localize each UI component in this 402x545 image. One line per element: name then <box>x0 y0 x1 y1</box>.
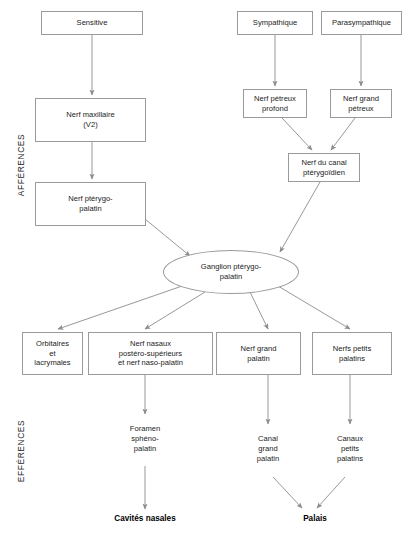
pterygopalatine-ganglion-diagram: Sensitive Sympathique Parasympathique Ne… <box>0 0 402 545</box>
side-label-efferences: EFFÉRENCES <box>16 406 26 496</box>
node-nerf-pterygo-palatin[interactable]: Nerf ptérygo- palatin <box>35 182 146 226</box>
node-ganglion-line2: palatin <box>220 272 242 282</box>
label-foramen-line1: Foramen <box>105 424 185 434</box>
node-nerf-pterygo-palatin-line2: palatin <box>79 204 101 214</box>
label-palais: Palais <box>275 514 355 523</box>
node-nerf-petreux-profond[interactable]: Nerf pétreux profond <box>243 89 307 118</box>
arrow-ganglion-to-nerfs-nasaux <box>145 292 205 329</box>
node-nerf-canal-pterygoidien[interactable]: Nerf du canal ptérygoïdien <box>288 153 360 182</box>
node-nerf-grand-petreux[interactable]: Nerf grand pétreux <box>330 89 392 118</box>
arrow-ganglion-to-nerfs-petits-palatins <box>278 286 350 329</box>
node-ganglion-line1: Ganglion ptérygo- <box>201 262 261 272</box>
arrow-canaux-petits-to-palais <box>317 477 345 508</box>
node-sensitive[interactable]: Sensitive <box>41 11 143 35</box>
label-canal-grand-line2: grand <box>232 444 304 454</box>
node-sympathique[interactable]: Sympathique <box>237 11 313 35</box>
node-nerfs-nasaux-line3: et nerf naso-palatin <box>118 358 183 368</box>
node-nerf-grand-petreux-line1: Nerf grand <box>343 94 379 104</box>
node-orbitaires-line2: et <box>49 349 55 359</box>
arrow-ganglion-to-nerf-grand-palatin <box>250 292 268 329</box>
node-nerf-petreux-profond-line2: profond <box>262 104 288 114</box>
node-nerf-grand-palatin-line2: palatin <box>247 354 269 364</box>
label-canaux-petits-line2: petits <box>314 444 386 454</box>
node-nerf-pterygo-palatin-line1: Nerf ptérygo- <box>68 194 112 204</box>
label-canal-grand-palatin: Canal grand palatin <box>232 434 304 464</box>
node-orbitaires-lacrymales[interactable]: Orbitaires et lacrymales <box>22 332 83 375</box>
node-orbitaires-line3: lacrymales <box>34 358 70 368</box>
node-nerf-petreux-profond-line1: Nerf pétreux <box>254 94 296 104</box>
node-nerfs-nasaux[interactable]: Nerf nasaux postéro-supérieurs et nerf n… <box>88 332 213 375</box>
node-orbitaires-line1: Orbitaires <box>36 339 69 349</box>
label-canaux-petits-palatins: Canaux petits palatins <box>314 434 386 464</box>
node-parasympathique-label: Parasympathique <box>332 18 391 28</box>
label-canal-grand-line3: palatin <box>232 454 304 464</box>
arrow-ganglion-to-orbitaires <box>58 285 185 329</box>
node-nerfs-petits-palatins[interactable]: Nerfs petits palatins <box>312 332 392 375</box>
node-nerf-canal-pterygoidien-line1: Nerf du canal <box>301 158 346 168</box>
label-canal-grand-line1: Canal <box>232 434 304 444</box>
node-nerf-maxillaire[interactable]: Nerf maxillaire (V2) <box>35 98 146 142</box>
node-nerfs-petits-palatins-line1: Nerfs petits <box>333 344 371 354</box>
node-nerf-maxillaire-line1: Nerf maxillaire <box>66 110 115 120</box>
label-cavites-nasales: Cavités nasales <box>95 514 195 523</box>
node-nerfs-petits-palatins-line2: palatins <box>339 354 365 364</box>
node-parasympathique[interactable]: Parasympathique <box>321 11 402 35</box>
arrow-canal-grand-to-palais <box>273 477 302 508</box>
side-label-afferences: AFFÉRENCES <box>16 120 26 210</box>
label-canaux-petits-line3: palatins <box>314 454 386 464</box>
node-sympathique-label: Sympathique <box>253 18 297 28</box>
node-nerf-maxillaire-line2: (V2) <box>83 120 97 130</box>
label-canaux-petits-line1: Canaux <box>314 434 386 444</box>
label-foramen-line3: palatin <box>105 444 185 454</box>
node-nerf-grand-palatin-line1: Nerf grand <box>241 344 277 354</box>
arrow-canal-pterygoidien-to-ganglion <box>280 182 320 252</box>
arrow-nerf-pterygo-palatin-to-ganglion <box>145 219 190 256</box>
node-nerfs-nasaux-line2: postéro-supérieurs <box>119 349 182 359</box>
node-nerf-canal-pterygoidien-line2: ptérygoïdien <box>303 168 345 178</box>
arrow-grand-petreux-to-canal <box>331 118 355 150</box>
node-nerf-grand-palatin[interactable]: Nerf grand palatin <box>216 332 301 375</box>
label-foramen-spheno-palatin: Foramen sphéno- palatin <box>105 424 185 454</box>
label-foramen-line2: sphéno- <box>105 434 185 444</box>
node-ganglion-pterygo-palatin[interactable]: Ganglion ptérygo- palatin <box>163 250 299 294</box>
node-sensitive-label: Sensitive <box>77 18 108 28</box>
node-nerfs-nasaux-line1: Nerf nasaux <box>130 339 171 349</box>
node-nerf-grand-petreux-line2: pétreux <box>348 104 373 114</box>
arrow-petreux-profond-to-canal <box>282 118 312 150</box>
